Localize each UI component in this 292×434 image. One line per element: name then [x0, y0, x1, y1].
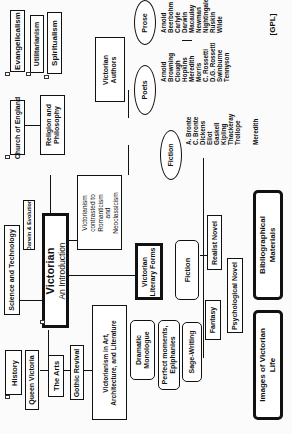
- prose-oval[interactable]: Prose: [134, 0, 156, 45]
- darwin-evolution-node[interactable]: Darwin & Evolution: [23, 200, 35, 250]
- document-icon[interactable]: [5, 395, 10, 399]
- connector: [48, 330, 49, 355]
- queen-victoria-node[interactable]: Queen Victoria: [25, 350, 39, 410]
- history-node[interactable]: History: [5, 350, 22, 395]
- node-label: VictorianLiterary Forms: [141, 247, 158, 296]
- psychological-novel-node[interactable]: Psychological Novel: [227, 258, 243, 333]
- node-label: Sage-Writing: [188, 330, 196, 373]
- node-label: Church of England: [13, 96, 21, 159]
- literary-forms-node[interactable]: VictorianLiterary Forms: [135, 243, 163, 300]
- node-label: Queen Victoria: [28, 355, 36, 404]
- contrast-node[interactable]: Victorianismcontrasted toRomanticismandN…: [77, 175, 122, 250]
- node-label: Realist Novel: [210, 221, 218, 265]
- node-label: Evangelicalism: [13, 12, 23, 70]
- node-label: Prose: [141, 13, 149, 32]
- root-node[interactable]: Victorian An Introduction: [42, 213, 69, 328]
- connector: [25, 125, 40, 126]
- node-label: DramaticMonologue: [134, 331, 151, 368]
- victorianism-art-node[interactable]: Victorianism in Art,Architecture, and Li…: [92, 305, 127, 420]
- node-label: The Arts: [52, 361, 61, 391]
- document-icon[interactable]: [5, 155, 10, 159]
- node-label: Victorianism in Art,Architecture, and Li…: [102, 320, 118, 405]
- node-label: BibliographicalMaterials: [258, 216, 277, 274]
- dramatic-monologue-node[interactable]: DramaticMonologue: [130, 320, 155, 380]
- sage-writing-node[interactable]: Sage-Writing: [182, 322, 202, 382]
- node-label: Poets: [141, 80, 149, 99]
- node-label: History: [9, 360, 18, 386]
- connector: [203, 158, 204, 358]
- document-icon[interactable]: [5, 72, 10, 76]
- realist-novel-node[interactable]: Realist Novel: [207, 215, 222, 270]
- document-icon[interactable]: [44, 75, 49, 79]
- poets-oval[interactable]: Poets: [134, 65, 156, 115]
- fiction-node[interactable]: Fiction: [175, 240, 199, 300]
- fantasy-node[interactable]: Fantasy: [205, 300, 221, 340]
- perfect-moments-node[interactable]: Perfect moments,Epiphanies: [158, 320, 180, 390]
- spiritualism-node[interactable]: Spiritualism: [47, 12, 62, 74]
- utilitarianism-node[interactable]: Utilitarianism: [30, 15, 44, 73]
- connector: [182, 40, 192, 41]
- node-label: Fiction: [183, 258, 192, 283]
- node-label: VictorianAuthors: [102, 55, 119, 85]
- node-label: Science and Technology: [8, 229, 16, 311]
- node-label: Psychological Novel: [231, 261, 239, 329]
- science-technology-node[interactable]: Science and Technology: [4, 225, 20, 315]
- node-label: Religion andPhilosophy: [44, 104, 61, 146]
- gothic-revival-node[interactable]: Gothic Revival: [70, 345, 84, 400]
- gpl-label: [GPL]: [268, 14, 277, 36]
- node-label: Victorianismcontrasted toRomanticismandN…: [80, 192, 119, 234]
- images-victorian-life-node[interactable]: Images of VictorianLife: [253, 310, 283, 420]
- node-label: Fantasy: [209, 307, 217, 333]
- node-label: Darwin & Evolution: [26, 200, 33, 250]
- evangelicalism-node[interactable]: Evangelicalism: [10, 10, 25, 72]
- document-icon[interactable]: [26, 72, 31, 76]
- node-label: Victorian An Introduction: [44, 242, 67, 299]
- node-label: Images of VictorianLife: [258, 328, 277, 402]
- victorian-authors-node[interactable]: VictorianAuthors: [95, 37, 125, 102]
- node-label: Gothic Revival: [73, 348, 81, 397]
- node-label: Spiritualism: [50, 20, 60, 66]
- fiction-oval[interactable]: Fiction: [160, 130, 182, 180]
- bibliographical-materials-node[interactable]: BibliographicalMaterials: [253, 190, 283, 300]
- node-label: Fiction: [167, 144, 175, 167]
- connector: [69, 275, 139, 276]
- religion-philosophy-node[interactable]: Religion andPhilosophy: [40, 95, 65, 155]
- connector: [128, 90, 129, 118]
- node-label: Perfect moments,Epiphanies: [161, 326, 178, 385]
- the-arts-node[interactable]: The Arts: [48, 355, 64, 397]
- church-of-england-node[interactable]: Church of England: [10, 100, 25, 155]
- document-icon[interactable]: [40, 320, 45, 324]
- node-label: Utilitarianism: [33, 22, 41, 66]
- connector: [20, 300, 42, 301]
- connector: [128, 145, 129, 175]
